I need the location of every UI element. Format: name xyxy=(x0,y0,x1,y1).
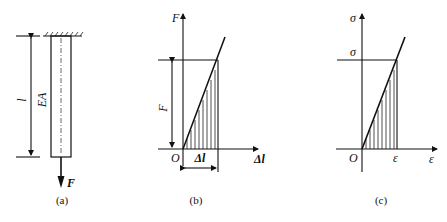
elongation-value-label: Δl xyxy=(194,151,207,165)
origin-label: O xyxy=(349,151,358,165)
figure-canvas: l EA F (a) F Δl O F xyxy=(0,0,447,222)
caption-a: (a) xyxy=(56,194,69,207)
figure-c-stress-strain: σ ε O σ ε (c) xyxy=(336,11,437,207)
figure-b-force-elongation: F Δl O F Δl (b) xyxy=(156,11,266,207)
y-axis-label: σ xyxy=(350,11,357,25)
force-label: F xyxy=(66,176,75,190)
origin-label: O xyxy=(171,151,180,165)
stress-value-label: σ xyxy=(350,45,357,59)
x-axis-label: Δl xyxy=(253,152,266,166)
linear-curve xyxy=(362,37,405,149)
y-axis-label: F xyxy=(171,11,180,25)
caption-c: (c) xyxy=(375,194,388,207)
force-value-label: F xyxy=(156,104,170,113)
work-area-hatch xyxy=(187,70,215,149)
work-area-hatch xyxy=(366,70,394,149)
rigidity-label: EA xyxy=(35,92,49,108)
caption-b: (b) xyxy=(190,194,203,207)
length-label: l xyxy=(15,98,29,102)
force-arrow-icon xyxy=(58,176,65,188)
figure-a-bar: l EA F (a) xyxy=(15,32,83,207)
linear-curve xyxy=(183,37,225,149)
x-axis-label: ε xyxy=(429,152,434,166)
strain-value-label: ε xyxy=(393,151,398,165)
